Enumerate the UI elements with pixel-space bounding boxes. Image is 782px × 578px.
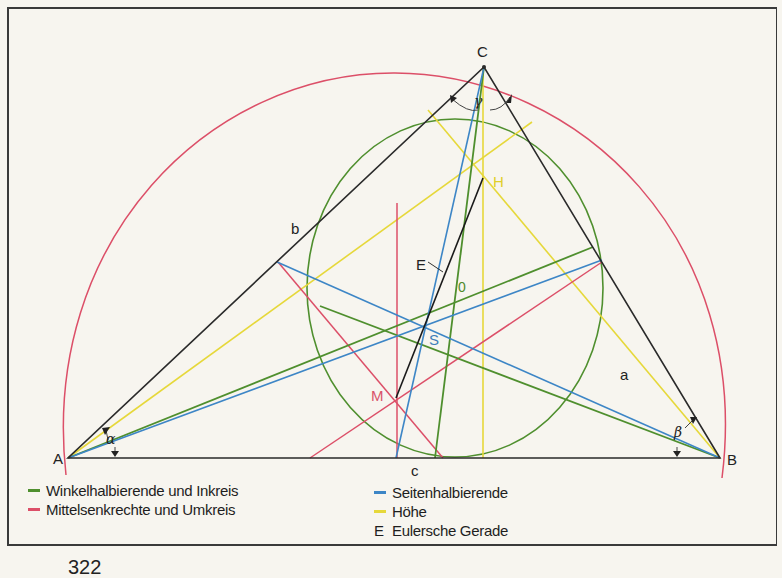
legend-item-perpendicular-bisector: Mittelsenkrechte und Umkreis [28, 501, 235, 518]
legend-item-euler-line: E Eulersche Gerade [374, 522, 508, 539]
side-label-c: c [411, 463, 419, 478]
red-line-swatch [28, 508, 40, 511]
point-label-h: H [493, 174, 504, 189]
legend-item-median: Seitenhalbierende [374, 484, 508, 501]
vertex-c-dot [482, 65, 486, 69]
vertex-label-b: B [727, 452, 737, 467]
side-label-a: a [620, 367, 628, 382]
point-label-m: M [371, 388, 384, 403]
legend-label: Winkelhalbierende und Inkreis [46, 482, 238, 499]
green-line-swatch [28, 489, 40, 492]
yellow-line-swatch [374, 510, 386, 513]
point-label-o: 0 [458, 280, 466, 294]
angle-label-beta: β [674, 425, 682, 439]
side-label-b: b [291, 221, 299, 236]
euler-pointer [428, 262, 443, 272]
vertex-label-a: A [53, 451, 63, 466]
vertex-label-c: C [477, 44, 488, 59]
euler-line-label: E [416, 257, 426, 272]
point-label-s: S [429, 332, 439, 347]
legend-label: Höhe [392, 503, 427, 520]
angle-label-gamma: γ [474, 94, 482, 108]
legend-label: Eulersche Gerade [392, 522, 508, 539]
legend-item-altitude: Höhe [374, 503, 427, 520]
angle-label-alpha: α [106, 432, 115, 446]
legend-label: Seitenhalbierende [392, 484, 508, 501]
legend-label: Mittelsenkrechte und Umkreis [46, 501, 235, 518]
blue-line-swatch [374, 491, 386, 494]
letter-e-marker: E [374, 522, 386, 539]
page-number: 322 [68, 556, 101, 578]
incircle [307, 119, 603, 457]
legend-item-angle-bisector: Winkelhalbierende und Inkreis [28, 482, 238, 499]
